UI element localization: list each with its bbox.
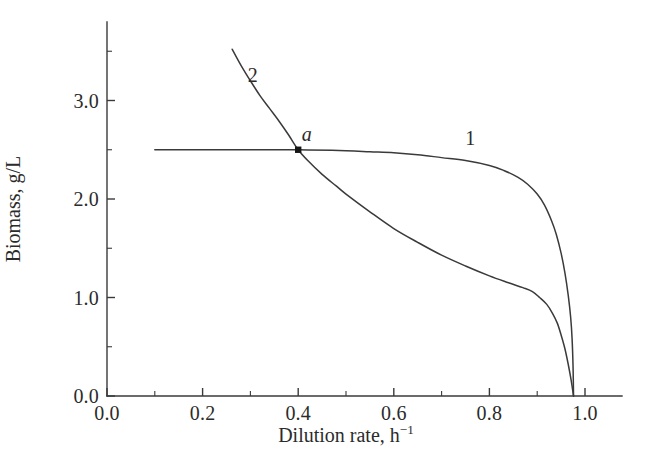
annotation-marker-a <box>295 147 301 153</box>
axes-group <box>107 22 622 396</box>
x-tick-label: 0.8 <box>477 402 503 425</box>
curve-label-2: 2 <box>248 63 258 86</box>
x-tick-label: 1.0 <box>572 402 598 425</box>
y-axis-title: Biomass, g/L <box>2 99 25 319</box>
x-tick-label: 0.2 <box>190 402 216 425</box>
x-tick-label: 0.4 <box>285 402 311 425</box>
y-tick-label: 2.0 <box>73 188 99 211</box>
x-axis-title-exponent: −1 <box>400 422 414 437</box>
y-tick-label: 3.0 <box>73 89 99 112</box>
annotation-markers-group <box>295 147 301 153</box>
x-axis-title: Dilution rate, h−1 <box>278 424 414 447</box>
curve-label-1: 1 <box>465 126 475 149</box>
biomass-vs-dilution-rate-chart: 0.00.20.40.60.81.0 0.01.02.03.0 12 a Dil… <box>0 0 650 460</box>
annotation-label-a: a <box>302 122 312 145</box>
curve-2 <box>232 49 573 396</box>
y-tick-label: 1.0 <box>73 286 99 309</box>
y-tick-label: 0.0 <box>73 385 99 408</box>
curve-1 <box>155 150 574 396</box>
ticks-group <box>107 51 585 396</box>
curves-group <box>155 49 574 396</box>
x-axis-title-text: Dilution rate, h <box>278 424 400 446</box>
